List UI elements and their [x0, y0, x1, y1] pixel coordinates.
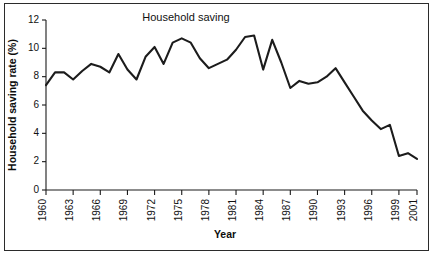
y-tick-label: 12 [28, 14, 40, 25]
x-tick-label: 1990 [308, 199, 319, 222]
x-tick-label: 1981 [227, 199, 238, 222]
y-tick-label: 10 [28, 42, 40, 53]
x-tick-label: 1999 [390, 199, 401, 222]
y-tick-label: 6 [33, 99, 39, 110]
chart-title: Household saving [142, 11, 229, 23]
x-tick-label: 1984 [254, 199, 265, 222]
y-tick-label: 8 [33, 70, 39, 81]
x-tick-label: 1960 [37, 199, 48, 222]
y-tick-label: 4 [33, 127, 39, 138]
line-chart-plot: 0246810121960196319661969197219751978198… [0, 0, 433, 255]
x-tick-label: 2001 [408, 199, 419, 222]
x-tick-label: 1963 [64, 199, 75, 222]
y-tick-label: 2 [33, 155, 39, 166]
x-tick-label: 1969 [118, 199, 129, 222]
x-tick-label: 1993 [336, 199, 347, 222]
data-series-line [46, 36, 417, 159]
x-tick-label: 1972 [146, 199, 157, 222]
x-tick-label: 1996 [363, 199, 374, 222]
x-tick-label: 1978 [200, 199, 211, 222]
x-tick-label: 1987 [281, 199, 292, 222]
chart-figure: 0246810121960196319661969197219751978198… [0, 0, 433, 255]
x-axis-title: Year [214, 228, 236, 240]
y-tick-label: 0 [33, 184, 39, 195]
x-tick-label: 1966 [91, 199, 102, 222]
x-tick-label: 1975 [173, 199, 184, 222]
y-axis-title: Household saving rate (%) [6, 39, 18, 171]
